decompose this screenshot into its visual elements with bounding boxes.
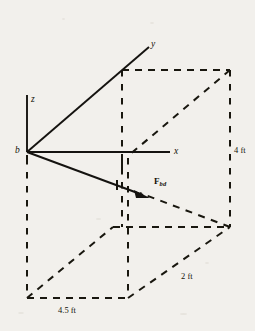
dimension-label-width: 4.5 ft (58, 306, 76, 315)
y-axis-label: y (151, 40, 155, 50)
force-subscript: bd (160, 180, 167, 187)
force-vector-arrowhead (134, 190, 150, 198)
x-axis-label: x (174, 147, 178, 157)
y-axis-line (27, 47, 149, 152)
force-vector-line (27, 152, 143, 195)
box-edge-bottom-right-diagonal (128, 227, 230, 298)
box-edge-mid-diagonal (140, 193, 230, 227)
box-edge-top-diagonal (128, 70, 230, 156)
figure-canvas: b z x y Fbd 4 ft 2 ft 4.5 ft (0, 0, 255, 331)
dimension-label-height: 4 ft (234, 146, 246, 155)
box-force-diagram (0, 0, 255, 331)
origin-label-b: b (15, 146, 20, 156)
z-axis-label: z (31, 95, 35, 105)
box-edge-bottom-left-diagonal (27, 227, 113, 298)
force-label: Fbd (154, 177, 166, 187)
dimension-label-depth: 2 ft (181, 272, 193, 281)
